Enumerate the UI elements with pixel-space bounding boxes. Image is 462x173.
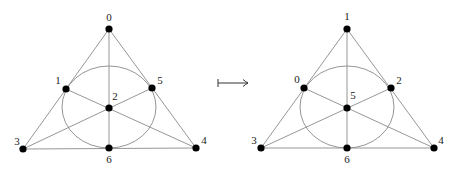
point-label-5: 5 <box>157 74 163 86</box>
fano-plane-right: 1053426 <box>251 10 444 165</box>
point-label-3: 3 <box>14 135 20 147</box>
point-label-4: 4 <box>201 134 207 146</box>
point-label-0: 0 <box>106 11 112 23</box>
point-4 <box>430 144 437 151</box>
point-4 <box>192 144 199 151</box>
point-label-3: 3 <box>251 134 257 146</box>
point-label-0: 0 <box>294 73 300 85</box>
point-6 <box>343 144 350 151</box>
point-label-1: 1 <box>344 10 350 22</box>
line-4 <box>23 88 152 149</box>
point-1 <box>62 85 69 92</box>
point-label-6: 6 <box>106 153 112 165</box>
point-3 <box>257 144 264 151</box>
point-label-2: 2 <box>396 74 402 86</box>
point-2 <box>387 84 394 91</box>
line-5 <box>304 88 434 148</box>
point-label-2: 2 <box>112 90 118 102</box>
point-label-5: 5 <box>350 89 356 101</box>
point-label-6: 6 <box>344 153 350 165</box>
point-label-4: 4 <box>438 134 444 146</box>
line-4 <box>261 88 391 148</box>
fano-plane-left: 0123456 <box>14 11 207 165</box>
point-5 <box>148 84 155 91</box>
point-0 <box>300 84 307 91</box>
point-1 <box>343 25 350 32</box>
fano-plane-mapping-diagram: 0123456 1053426 <box>0 0 462 173</box>
point-2 <box>105 104 112 111</box>
point-0 <box>105 25 112 32</box>
point-3 <box>19 145 26 152</box>
point-5 <box>343 104 350 111</box>
point-label-1: 1 <box>55 74 61 86</box>
point-6 <box>105 144 112 151</box>
mapsto-arrow <box>218 79 248 87</box>
